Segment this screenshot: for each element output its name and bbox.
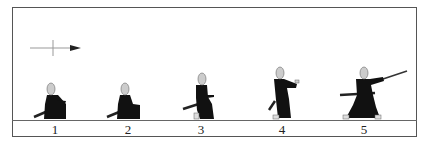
direction-arrow-icon <box>30 40 81 56</box>
figure-1-icon <box>34 83 66 119</box>
figure-3-icon <box>183 73 214 119</box>
frame-label-2: 2 <box>118 122 138 138</box>
figure-5-icon <box>340 67 407 119</box>
frame-label-1: 1 <box>45 122 65 138</box>
frame-label-3: 3 <box>191 122 211 138</box>
frame-label-5: 5 <box>354 122 374 138</box>
frame-label-4: 4 <box>272 122 292 138</box>
figure-4-icon <box>269 67 299 119</box>
figure-2-icon <box>107 83 140 119</box>
